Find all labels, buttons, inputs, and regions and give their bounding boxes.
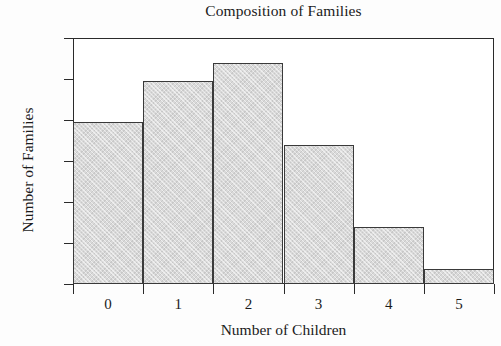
x-tick-mark: [213, 284, 214, 294]
y-tick-mark: [64, 161, 73, 162]
x-tick-mark: [494, 284, 495, 294]
x-tick-label: 5: [439, 296, 479, 313]
x-tick-mark: [143, 284, 144, 294]
y-tick-mark: [64, 202, 73, 203]
y-tick-mark: [64, 38, 73, 39]
x-tick-mark: [354, 284, 355, 294]
histogram-bar: [143, 81, 213, 284]
histogram-bar: [354, 227, 424, 284]
histogram-bar: [424, 269, 494, 284]
x-tick-label: 4: [369, 296, 409, 313]
histogram-figure: Composition of Families Number of Famili…: [0, 0, 501, 346]
x-tick-mark: [424, 284, 425, 294]
x-tick-mark: [73, 284, 74, 294]
chart-title: Composition of Families: [73, 2, 494, 20]
x-tick-label: 1: [158, 296, 198, 313]
histogram-bar: [213, 63, 283, 284]
histogram-bar: [73, 122, 143, 284]
y-axis-title: Number of Families: [19, 55, 37, 285]
y-tick-mark: [64, 79, 73, 80]
x-tick-mark: [284, 284, 285, 294]
bars-layer: [73, 38, 494, 284]
x-axis-title: Number of Children: [73, 321, 494, 339]
x-tick-label: 0: [88, 296, 128, 313]
y-tick-mark: [64, 120, 73, 121]
y-tick-mark: [64, 243, 73, 244]
histogram-bar: [284, 145, 354, 284]
x-tick-label: 3: [299, 296, 339, 313]
x-tick-label: 2: [228, 296, 268, 313]
